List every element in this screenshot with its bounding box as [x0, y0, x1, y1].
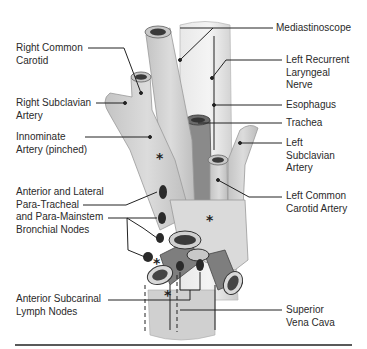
label-paratracheal-nodes: Anterior and Lateral Para-Tracheal and P… — [16, 186, 104, 236]
label-subcarinal-nodes: Anterior Subcarinal Lymph Nodes — [16, 293, 101, 318]
svg-text:*: * — [206, 212, 214, 228]
label-mediastinoscope: Mediastinoscope — [276, 22, 351, 35]
label-left-subclavian: Left Subclavian Artery — [286, 137, 335, 175]
superior-vena-cava — [148, 290, 215, 340]
svg-text:*: * — [164, 287, 172, 303]
label-innominate: Innominate Artery (pinched) — [16, 131, 87, 156]
label-superior-vena-cava: Superior Vena Cava — [286, 304, 335, 329]
label-right-subclavian: Right Subclavian Artery — [16, 97, 91, 122]
label-right-common-carotid: Right Common Carotid — [16, 42, 83, 67]
svg-text:*: * — [153, 255, 161, 271]
label-trachea: Trachea — [286, 117, 322, 130]
label-left-common-carotid: Left Common Carotid Artery — [286, 190, 347, 215]
label-left-recurrent-laryngeal-nerve: Left Recurrent Laryngeal Nerve — [286, 54, 349, 92]
svg-text:*: * — [156, 150, 164, 166]
label-esophagus: Esophagus — [286, 99, 336, 112]
